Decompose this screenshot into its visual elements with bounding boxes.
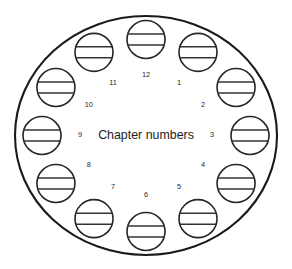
token-circle-8 [37, 165, 75, 203]
chapter-label-8: 8 [87, 160, 91, 169]
token-circle-5 [179, 200, 217, 238]
chapter-label-5: 5 [177, 182, 181, 191]
token-outline [179, 33, 217, 71]
token-outline [75, 200, 113, 238]
chapter-label-12: 12 [142, 70, 150, 79]
center-caption: Chapter numbers [98, 128, 194, 142]
chapter-ring-diagram: 123456789101112 Chapter numbers [0, 0, 292, 269]
chapter-label-2: 2 [201, 100, 205, 109]
token-circle-9 [23, 117, 61, 155]
token-outline [75, 33, 113, 71]
chapter-label-9: 9 [78, 130, 82, 139]
chapter-label-11: 11 [109, 78, 117, 87]
diagram-canvas: 123456789101112 Chapter numbers [0, 0, 292, 269]
token-outline [127, 213, 165, 251]
token-circle-10 [37, 69, 75, 107]
token-outline [37, 69, 75, 107]
token-outline [23, 117, 61, 155]
token-circle-1 [179, 33, 217, 71]
token-outline [179, 200, 217, 238]
token-circle-12 [127, 21, 165, 59]
token-circle-3 [231, 117, 269, 155]
chapter-label-10: 10 [85, 100, 93, 109]
token-circle-4 [217, 165, 255, 203]
token-circle-6 [127, 213, 165, 251]
token-circle-7 [75, 200, 113, 238]
token-outline [217, 165, 255, 203]
chapter-label-4: 4 [201, 160, 205, 169]
token-circle-11 [75, 33, 113, 71]
token-outline [231, 117, 269, 155]
chapter-label-1: 1 [177, 78, 181, 87]
chapter-label-7: 7 [111, 182, 115, 191]
token-outline [217, 69, 255, 107]
chapter-label-6: 6 [144, 190, 148, 199]
token-circle-2 [217, 69, 255, 107]
chapter-label-3: 3 [210, 130, 214, 139]
token-outline [127, 21, 165, 59]
token-outline [37, 165, 75, 203]
